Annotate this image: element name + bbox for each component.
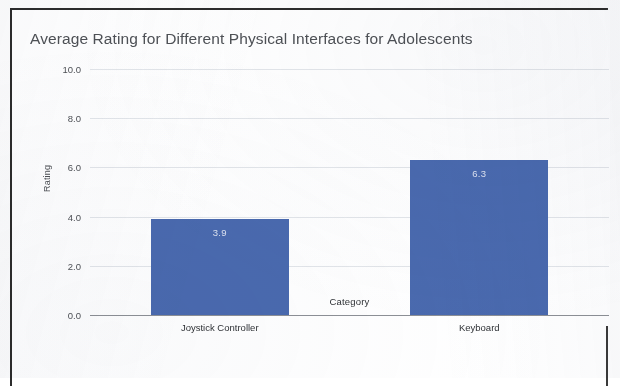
y-tick-label: 6.0: [68, 162, 81, 173]
y-axis-title: Rating: [42, 165, 52, 192]
y-tick-label: 2.0: [68, 260, 81, 271]
x-tick-label: Joystick Controller: [181, 322, 259, 333]
gridline-8: 8.0: [90, 118, 609, 119]
plot-area: 10.08.06.04.02.00.0 3.9Joystick Controll…: [90, 69, 609, 315]
bar-value-label: 3.9: [151, 227, 289, 238]
y-tick-label: 4.0: [68, 211, 81, 222]
gridline-10: 10.0: [90, 69, 609, 70]
bar-value-label: 6.3: [410, 168, 548, 179]
figure-frame: Average Rating for Different Physical In…: [10, 8, 608, 386]
chart-title: Average Rating for Different Physical In…: [30, 30, 473, 48]
y-tick-label: 0.0: [68, 310, 81, 321]
gridline-0: 0.0: [90, 315, 609, 316]
y-tick-label: 10.0: [63, 64, 82, 75]
x-axis-title: Category: [90, 296, 609, 307]
x-tick-label: Keyboard: [459, 322, 500, 333]
y-tick-label: 8.0: [68, 113, 81, 124]
bar-chart: Average Rating for Different Physical In…: [12, 10, 610, 326]
bar[interactable]: 6.3: [410, 160, 548, 315]
